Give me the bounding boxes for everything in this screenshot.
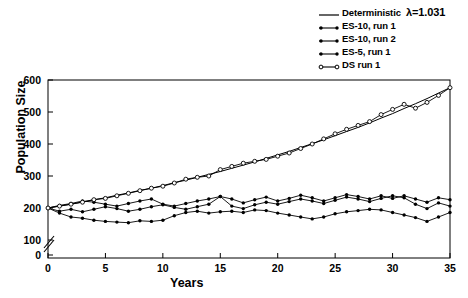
x-tick-label: 10 <box>157 262 169 274</box>
x-axis-label: Years <box>170 276 203 290</box>
y-tick-label: 100 <box>23 234 41 246</box>
x-tick-label: 5 <box>103 262 109 274</box>
series-ds-run-1 <box>46 86 452 210</box>
legend-lambda-value: λ=1.031 <box>406 7 445 18</box>
series-deterministic <box>48 88 450 208</box>
y-axis-break-icon <box>44 236 54 252</box>
legend-label-es10-run2: ES-10, run 2 <box>342 33 396 44</box>
legend-label-deterministic: Deterministic <box>342 7 401 18</box>
x-tick-label: 0 <box>45 262 51 274</box>
x-tick-label: 20 <box>272 262 284 274</box>
legend-symbol-line-open-dot <box>318 59 342 71</box>
legend-label-es10-run1: ES-10, run 1 <box>342 20 396 31</box>
data-series-group <box>46 86 452 225</box>
x-tick-label: 35 <box>444 262 456 274</box>
legend-item-ds-run1: DS run 1 <box>318 58 466 71</box>
legend-label-es5-run1: ES-5, run 1 <box>342 46 391 57</box>
series-es-5-run-1 <box>46 206 451 224</box>
legend-label-ds-run1: DS run 1 <box>342 59 380 70</box>
plot-frame <box>48 80 450 258</box>
legend-item-es10-run2: ES-10, run 2 <box>318 32 466 45</box>
x-axis-ticks: 05101520253035 <box>45 253 456 274</box>
y-tick-label: 200 <box>23 202 41 214</box>
legend-item-deterministic: Deterministic λ=1.031 <box>318 6 466 19</box>
y-tick-label: 0 <box>35 249 41 261</box>
legend-symbol-plain-line <box>318 7 342 19</box>
chart-figure: 0100200300400500600 05101520253035 Popul… <box>0 0 468 298</box>
x-tick-label: 15 <box>214 262 226 274</box>
chart-legend: Deterministic λ=1.031 ES-10, run 1 <box>318 6 466 71</box>
legend-symbol-line-dot <box>318 33 342 45</box>
y-axis-label: Population Size <box>14 72 28 182</box>
legend-item-es5-run1: ES-5, run 1 <box>318 45 466 58</box>
x-tick-label: 30 <box>387 262 399 274</box>
x-tick-label: 25 <box>329 262 341 274</box>
legend-symbol-line-dot <box>318 20 342 32</box>
legend-symbol-line-dot <box>318 46 342 58</box>
legend-item-es10-run1: ES-10, run 1 <box>318 19 466 32</box>
